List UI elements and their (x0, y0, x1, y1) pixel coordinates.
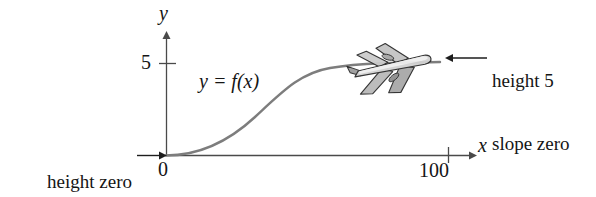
y-axis-label: y (159, 2, 168, 25)
x-tick-label-100: 100 (419, 159, 449, 182)
left-annotation-line1: height zero (8, 171, 132, 192)
figure-container: y x 5 0 100 y = f(x) height zero slope z… (0, 0, 596, 197)
left-annotation: height zero slope zero (8, 129, 132, 197)
right-annotation: height 5 slope zero (492, 28, 592, 196)
right-annotation-line2: slope zero (492, 133, 592, 154)
x-axis-label: x (478, 134, 487, 157)
right-annotation-line1: height 5 (492, 70, 592, 91)
airplane-icon (344, 35, 436, 101)
origin-label: 0 (158, 158, 168, 181)
curve-equation-label: y = f(x) (199, 70, 259, 93)
y-tick-label-5: 5 (141, 51, 151, 74)
